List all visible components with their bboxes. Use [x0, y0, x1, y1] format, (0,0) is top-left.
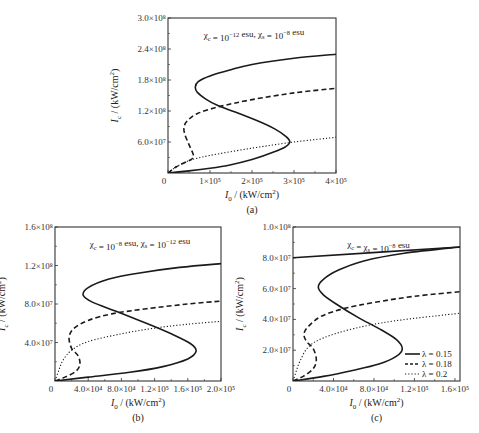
y-tick-label: 4.0×10⁷ — [25, 338, 53, 348]
x-axis-label: I0 / (kW/cm2) — [224, 188, 279, 203]
x-tick-label: 1.2×10⁵ — [140, 384, 168, 394]
series-dashed — [55, 301, 221, 381]
panel-a: 01×10⁵2×10⁵3×10⁵4×10⁵6.0×10⁷1.2×10⁸1.8×1… — [108, 13, 347, 216]
x-tick-label: 1.6×10⁵ — [174, 384, 202, 394]
parameter-annotation: χc = 10−8 esu, χs = 10−12 esu — [89, 236, 191, 252]
legend-label: λ = 0.15 — [422, 349, 452, 359]
y-tick-label: 8.0×10⁷ — [25, 299, 53, 309]
panel-b: 04.0×10⁴8.0×10⁴1.2×10⁵1.6×10⁵2.0×10⁵4.0×… — [0, 222, 235, 424]
x-tick-label: 8.0×10⁴ — [360, 384, 388, 394]
x-tick-label: 4.0×10⁴ — [74, 384, 102, 394]
x-tick-label: 1.6×10⁵ — [441, 384, 469, 394]
y-axis-label: Ic / (kW/cm2) — [0, 277, 10, 332]
plot-frame — [55, 227, 221, 381]
plot-frame — [168, 18, 336, 173]
y-tick-label: 3.0×10⁸ — [138, 13, 166, 23]
y-tick-label: 6.0×10⁷ — [263, 284, 291, 294]
x-tick-label: 0 — [49, 384, 54, 394]
y-tick-label: 1.6×10⁸ — [25, 222, 53, 232]
y-axis-label: Ic / (kW/cm2) — [108, 69, 123, 124]
y-tick-label: 2.4×10⁸ — [138, 44, 166, 54]
legend-label: λ = 0.18 — [422, 359, 452, 369]
panel-caption: (c) — [371, 412, 382, 424]
x-axis-label: I0 / (kW/cm2) — [110, 396, 165, 411]
y-tick-label: 4.0×10⁷ — [263, 314, 291, 324]
panel-caption: (a) — [246, 204, 257, 216]
panel-caption: (b) — [132, 412, 144, 424]
y-tick-label: 1.2×10⁸ — [25, 261, 53, 271]
x-axis-label: I0 / (kW/cm2) — [348, 396, 403, 411]
legend: λ = 0.15λ = 0.18λ = 0.2 — [405, 349, 452, 379]
x-tick-label: 4×10⁵ — [325, 176, 347, 186]
y-tick-label: 1.2×10⁸ — [138, 106, 166, 116]
y-tick-label: 1.0×10⁸ — [263, 222, 291, 232]
y-tick-label: 6.0×10⁷ — [138, 137, 166, 147]
parameter-annotation: χc = χs = 10−8 esu — [346, 239, 410, 254]
y-axis-label: Ic / (kW/cm2) — [233, 277, 248, 332]
x-tick-label: 3×10⁵ — [283, 176, 305, 186]
legend-label: λ = 0.2 — [422, 369, 447, 379]
y-tick-label: 1.8×10⁸ — [138, 75, 166, 85]
x-tick-label: 1.2×10⁵ — [400, 384, 428, 394]
x-tick-label: 2.0×10⁵ — [207, 384, 235, 394]
x-tick-label: 0 — [162, 176, 167, 186]
x-tick-label: 8.0×10⁴ — [107, 384, 135, 394]
parameter-annotation: χc = 10−12 esu, χs = 10−8 esu — [203, 27, 305, 43]
panel-c: 04.0×10⁴8.0×10⁴1.2×10⁵1.6×10⁵2.0×10⁷4.0×… — [233, 222, 469, 424]
y-tick-label: 2.0×10⁷ — [263, 345, 291, 355]
x-tick-label: 2×10⁵ — [241, 176, 263, 186]
x-tick-label: 0 — [287, 384, 292, 394]
x-tick-label: 1×10⁵ — [199, 176, 221, 186]
y-tick-label: 8.0×10⁷ — [263, 253, 291, 263]
x-tick-label: 4.0×10⁴ — [319, 384, 347, 394]
figure: 01×10⁵2×10⁵3×10⁵4×10⁵6.0×10⁷1.2×10⁸1.8×1… — [0, 0, 479, 433]
